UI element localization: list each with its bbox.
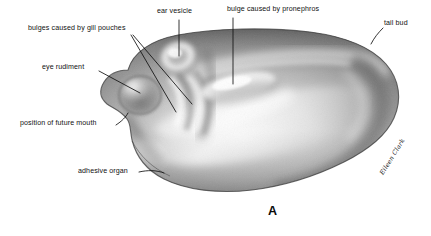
embryo-illustration	[0, 0, 431, 236]
label-ear-vesicle: ear vesicle	[157, 8, 192, 15]
label-bulge-caused-by-pronephros: bulge caused by pronephros	[227, 6, 319, 13]
label-eye-rudiment: eye rudiment	[42, 64, 84, 71]
label-bulges-caused-by-gill-pouches: bulges caused by gill pouches	[28, 25, 126, 32]
panel-letter-label: A	[268, 204, 277, 218]
label-adhesive-organ: adhesive organ	[78, 168, 128, 175]
label-position-of-future-mouth: position of future mouth	[20, 120, 97, 127]
leader-tail-bud	[371, 28, 383, 44]
label-tail-bud: tail bud	[384, 20, 408, 27]
embryo-figure-panel: bulges caused by gill pouches ear vesicl…	[0, 0, 431, 236]
embryo-body	[90, 20, 420, 210]
